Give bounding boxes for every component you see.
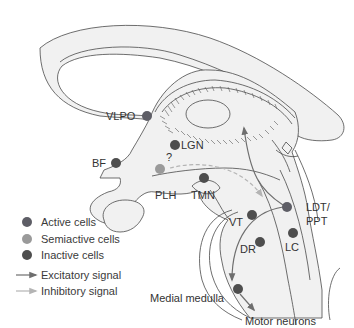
- label-lgn: LGN: [181, 139, 204, 151]
- lc-dot: [288, 228, 298, 238]
- medial-medulla-dot: [233, 284, 243, 294]
- label-motor-neurons: Motor neurons: [245, 315, 316, 327]
- legend-active-dot: [22, 217, 32, 227]
- lgn-dot: [170, 140, 180, 150]
- label-question: ?: [166, 151, 172, 163]
- label-tmn: TMN: [191, 189, 215, 201]
- dr-dot: [255, 237, 265, 247]
- legend-active-label: Active cells: [41, 216, 97, 228]
- label-vlpo: VLPO: [106, 110, 136, 122]
- label-medial-medulla: Medial medulla: [150, 292, 225, 304]
- brain-sagittal-diagram: VLPO LGN BF ? PLH TMN VT LDT/ PPT DR LC …: [0, 0, 354, 328]
- bf-dot: [111, 158, 121, 168]
- label-ppt: PPT: [306, 215, 328, 227]
- label-ldt: LDT/: [306, 201, 331, 213]
- vlpo-dot: [142, 111, 152, 121]
- label-plh: PLH: [155, 189, 176, 201]
- label-bf: BF: [92, 157, 106, 169]
- legend-inhibitory-label: Inhibitory signal: [41, 285, 117, 297]
- tmn-dot: [199, 173, 209, 183]
- label-dr: DR: [240, 243, 256, 255]
- label-lc: LC: [285, 241, 299, 253]
- plh-dot: [155, 164, 165, 174]
- ldt-ppt-dot: [282, 202, 292, 212]
- vt-dot: [247, 210, 257, 220]
- legend-inactive-label: Inactive cells: [41, 249, 104, 261]
- legend-semiactive-label: Semiactive cells: [41, 233, 120, 245]
- label-vt: VT: [229, 216, 243, 228]
- legend-excitatory-label: Excitatory signal: [41, 269, 121, 281]
- legend-semiactive-dot: [22, 234, 32, 244]
- legend: Active cells Semiactive cells Inactive c…: [16, 216, 121, 297]
- legend-inactive-dot: [22, 250, 32, 260]
